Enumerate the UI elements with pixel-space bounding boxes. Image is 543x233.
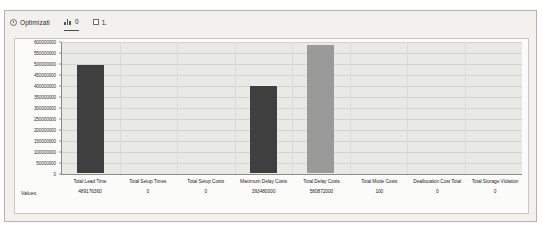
y-axis: 6000000005500000005000000004500000004000… (15, 42, 59, 175)
chart-panel: 6000000005500000005000000004500000004000… (14, 38, 529, 214)
bar[interactable] (77, 65, 104, 173)
y-axis-tick-label: 250000000 (34, 117, 56, 122)
y-axis-tick-label: 350000000 (34, 95, 56, 100)
value-cell: 0 (455, 189, 535, 194)
y-axis-tick-label: 200000000 (34, 128, 56, 133)
checkbox-icon (93, 19, 99, 25)
chart-toggle-button[interactable]: 0 (64, 13, 79, 31)
category-separator (120, 42, 121, 174)
data-table: Values: Total Lead TimeTotal Setup Times… (15, 177, 528, 213)
y-axis-tick-label: 600000000 (34, 40, 56, 45)
plot-wrapper: 6000000005500000005000000004500000004000… (15, 42, 528, 175)
bar[interactable] (250, 86, 277, 173)
y-axis-tick-label: 100000000 (34, 150, 56, 155)
optimization-button-label: Optimizati (20, 19, 50, 26)
chart-toggle-label: 0 (75, 18, 79, 25)
y-axis-tick-label: 0 (54, 172, 56, 177)
toolbar: Optimizati 0 1. (5, 11, 536, 33)
category-separator (350, 42, 351, 174)
option-checkbox[interactable]: 1. (93, 14, 108, 30)
y-axis-tick-label: 300000000 (34, 106, 56, 111)
y-axis-tick-label: 550000000 (34, 51, 56, 56)
chart-icon (64, 17, 72, 25)
optimization-button[interactable]: Optimizati (10, 14, 50, 30)
bar[interactable] (307, 45, 334, 173)
category-separator (407, 42, 408, 174)
values-row-label: Values: (21, 190, 37, 196)
y-axis-tick-label: 500000000 (34, 62, 56, 67)
y-axis-tick-label: 50000000 (36, 161, 56, 166)
optimization-results-window: Optimizati 0 1. 600000000550000000500000… (4, 10, 537, 222)
category-separator (235, 42, 236, 174)
gear-icon (10, 19, 17, 26)
y-axis-tick-label: 150000000 (34, 139, 56, 144)
category-separator (177, 42, 178, 174)
category-separator (292, 42, 293, 174)
category-separator (465, 42, 466, 174)
category-label: Total Storage Violation (455, 179, 535, 184)
option-checkbox-label: 1. (102, 19, 108, 26)
plot-area (61, 42, 522, 175)
y-axis-tick-label: 450000000 (34, 73, 56, 78)
y-axis-tick-label: 400000000 (34, 84, 56, 89)
